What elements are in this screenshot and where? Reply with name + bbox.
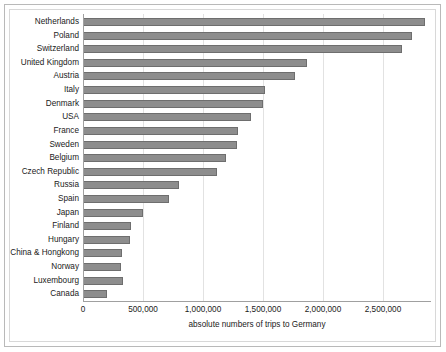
x-tick-label: 2,000,000 [305,305,341,314]
category-label: Netherlands [35,16,79,28]
x-tick-label: 1,500,000 [245,305,281,314]
plot-area: NetherlandsPolandSwitzerlandUnited Kingd… [83,14,431,302]
x-axis-title: absolute numbers of trips to Germany [83,320,431,329]
category-label: Austria [54,70,79,82]
x-tick-label: 0 [81,305,86,314]
category-label: USA [62,111,79,123]
category-label: Czech Republic [22,166,79,178]
x-tick-label: 500,000 [128,305,158,314]
category-label: Belgium [49,152,79,164]
category-label: United Kingdom [21,57,79,69]
axis-lines [83,14,431,302]
category-label: Finland [52,220,79,232]
category-label: Denmark [46,98,79,110]
category-label: Switzerland [37,43,79,55]
category-label: China & Hongkong [10,247,79,259]
category-label: Russia [54,179,79,191]
category-label: Spain [58,193,79,205]
category-label: Norway [51,261,79,273]
category-label: Poland [54,30,80,42]
x-tick-label: 1,000,000 [185,305,221,314]
category-label: Luxembourg [33,275,79,287]
category-label: France [54,125,79,137]
chart-canvas: NetherlandsPolandSwitzerlandUnited Kingd… [0,0,446,352]
category-label: Sweden [49,139,79,151]
category-label: Hungary [48,234,79,246]
category-label: Italy [64,84,79,96]
category-label: Japan [57,207,79,219]
category-label: Canada [50,288,79,300]
x-tick-label: 2,500,000 [365,305,401,314]
